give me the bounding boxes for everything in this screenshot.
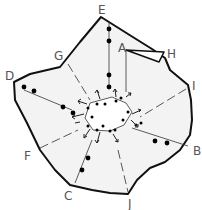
hub-dot (140, 122, 143, 125)
dot-e4 (107, 85, 112, 90)
hub-dot (115, 100, 118, 103)
hub-dot (102, 125, 105, 128)
hub-dot (91, 116, 94, 119)
label-G: G (54, 49, 63, 63)
dot-d2 (32, 89, 37, 94)
label-A: A (118, 41, 127, 55)
label-J: J (127, 197, 132, 210)
label-E: E (98, 3, 106, 17)
label-B: B (193, 144, 201, 158)
label-H: H (167, 47, 176, 61)
hub-dot (87, 125, 90, 128)
label-I: I (192, 79, 196, 93)
hub-dot (109, 130, 112, 133)
hub-dot (120, 97, 123, 100)
label-F: F (24, 149, 31, 163)
hub-dot (122, 119, 125, 122)
hub-dot (114, 129, 117, 132)
dot-c1 (80, 168, 85, 173)
hub-dot (104, 103, 107, 106)
dot-b1 (153, 139, 158, 144)
dot-d1 (22, 85, 27, 90)
hub-dot (96, 103, 99, 106)
dot-w1 (61, 105, 66, 110)
diagram-canvas: E A H I G D F B C J (0, 0, 202, 210)
hub-dot (96, 129, 99, 132)
hub-dot (127, 111, 130, 114)
label-D: D (5, 69, 14, 83)
dot-e2 (107, 39, 112, 44)
dot-b2 (165, 141, 170, 146)
hub-dot (87, 107, 90, 110)
dot-e1 (107, 27, 112, 32)
dot-e3 (107, 73, 112, 78)
label-C: C (64, 189, 72, 203)
dot-c2 (86, 156, 91, 161)
